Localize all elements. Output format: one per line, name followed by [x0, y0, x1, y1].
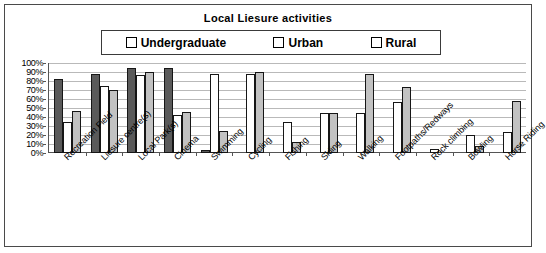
bar-undergraduate [201, 150, 210, 153]
y-axis-tick-mark [43, 63, 46, 64]
y-axis-tick-mark [43, 135, 46, 136]
y-axis-tick-mark [43, 99, 46, 100]
y-axis-tick-mark [43, 144, 46, 145]
bar-urban [393, 102, 402, 153]
bar-undergraduate [164, 68, 173, 154]
bar-undergraduate [127, 68, 136, 154]
legend-label-urban: Urban [288, 36, 323, 50]
x-axis-tick-mark [343, 153, 344, 156]
bar-undergraduate [54, 79, 63, 153]
x-axis-tick-mark [232, 153, 233, 156]
y-axis-tick-mark [43, 108, 46, 109]
x-axis-tick-mark [269, 153, 270, 156]
dark-gray-swatch-icon [126, 37, 137, 48]
y-axis-tick-mark [43, 81, 46, 82]
bar-urban [246, 74, 255, 153]
chart-legend: Undergraduate Urban Rural [101, 30, 441, 55]
x-axis-labels: Recreation FieldLiesure centre(s)Local P… [5, 155, 533, 247]
bar-undergraduate [91, 74, 100, 153]
chart-title: Local Liesure activities [5, 12, 531, 24]
chart-frame: Local Liesure activities Undergraduate U… [4, 4, 532, 247]
y-axis-tick-mark [43, 90, 46, 91]
y-axis-tick-mark [43, 72, 46, 73]
y-axis-tick-mark [43, 126, 46, 127]
white-swatch-icon [273, 37, 284, 48]
legend-item-undergraduate: Undergraduate [126, 36, 226, 50]
legend-item-urban: Urban [273, 36, 323, 50]
legend-item-rural: Rural [371, 36, 417, 50]
light-gray-swatch-icon [371, 37, 382, 48]
bar-urban [210, 74, 219, 153]
x-axis-tick-mark [86, 153, 87, 156]
x-axis-tick-mark [489, 153, 490, 156]
x-axis-tick-mark [122, 153, 123, 156]
y-axis-tick-mark [43, 117, 46, 118]
legend-label-rural: Rural [386, 36, 417, 50]
y-axis: 100%90%80%70%60%50%40%30%20%10%0% [5, 57, 46, 159]
x-axis-tick-mark [196, 153, 197, 156]
legend-label-undergraduate: Undergraduate [141, 36, 226, 50]
y-axis-tick-mark [43, 153, 46, 154]
x-axis-tick-mark [159, 153, 160, 156]
x-axis-tick-mark [416, 153, 417, 156]
x-axis-tick-mark [379, 153, 380, 156]
x-axis-tick-mark [453, 153, 454, 156]
x-axis-tick-mark [306, 153, 307, 156]
